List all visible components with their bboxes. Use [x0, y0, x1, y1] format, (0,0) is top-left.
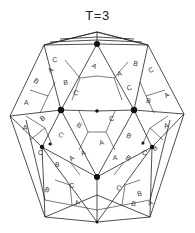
subunit-label-b: B: [33, 77, 41, 86]
threefold-axis: [95, 109, 99, 113]
subunit-label-a: A: [146, 198, 153, 206]
fivefold-vertex: [94, 174, 100, 180]
subunit-label-b: B: [136, 190, 142, 198]
capsid-diagram: ACBBAACCBCBAABABCCABACACBBAABCBBCABA: [0, 0, 195, 233]
subunit-label-b: B: [125, 132, 132, 140]
subunit-label-b: B: [43, 186, 51, 195]
subunit-label-c: C: [115, 183, 122, 191]
fivefold-vertex: [131, 107, 137, 113]
subunit-label-a: A: [113, 154, 118, 161]
threefold-axis: [96, 221, 99, 224]
subunit-label-c: C: [147, 66, 155, 75]
lattice-lines: [10, 44, 184, 222]
fivefold-vertex: [94, 41, 100, 47]
subunit-label-a: A: [67, 154, 75, 163]
fivefold-vertex: [58, 107, 64, 113]
subunit-label-b: B: [63, 79, 69, 87]
subunit-label-b: B: [146, 97, 152, 105]
subunit-label-c: C: [52, 56, 57, 63]
subunit-label-a: A: [163, 91, 171, 100]
subunit-label-b: B: [132, 60, 139, 68]
subunit-label-b: B: [55, 161, 61, 168]
subunit-label-b: B: [76, 121, 84, 130]
subunit-label-a: A: [24, 99, 29, 106]
subunit-label-c: C: [141, 149, 148, 157]
subunit-label-c: C: [109, 115, 115, 123]
subunit-label-b: B: [38, 114, 46, 123]
fivefold-vertex: [40, 145, 44, 149]
fivefold-vertex: [150, 145, 154, 149]
subunit-label-c: C: [57, 131, 65, 140]
subunit-label-b: B: [130, 200, 137, 208]
subunit-label-c: C: [69, 182, 75, 190]
threefold-axis: [49, 143, 52, 146]
subunit-label-a: A: [22, 124, 27, 131]
subunit-label-a: A: [46, 66, 54, 75]
subunit-label-a: A: [90, 62, 98, 71]
subunit-label-c: C: [125, 83, 132, 91]
subunit-label-a: A: [116, 70, 123, 78]
threefold-axis: [142, 142, 145, 145]
subunit-label-a: A: [98, 139, 105, 147]
